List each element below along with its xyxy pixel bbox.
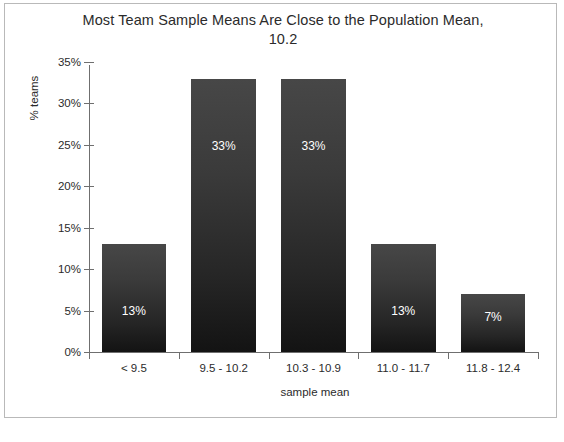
bar[interactable]: 13%: [371, 244, 436, 352]
x-axis-tick-mark: [89, 352, 90, 359]
y-axis-tick-label: 20%: [58, 180, 81, 192]
x-axis-tick-mark: [448, 352, 449, 359]
x-axis-title: sample mean: [89, 386, 541, 398]
x-axis-category-label: 11.8 - 12.4: [448, 362, 538, 374]
bar-value-label: 13%: [102, 304, 167, 318]
chart-title-line-2: 10.2: [269, 31, 298, 47]
y-axis-tick-mark: [84, 145, 94, 146]
x-axis-tick-mark: [538, 352, 539, 359]
y-axis-tick-mark: [84, 228, 94, 229]
plot-area: 0%5%10%15%20%25%30%35% 13%33%33%13%7% < …: [89, 62, 545, 354]
y-axis-tick-label: 10%: [58, 263, 81, 275]
y-axis-title: % teams: [28, 58, 40, 138]
y-axis-tick-label: 35%: [58, 56, 81, 68]
chart-frame: Most Team Sample Means Are Close to the …: [4, 3, 557, 418]
y-axis-tick-label: 25%: [58, 139, 81, 151]
x-axis-category-label: 9.5 - 10.2: [179, 362, 269, 374]
bar-value-label: 33%: [281, 139, 346, 153]
bar[interactable]: 33%: [281, 79, 346, 352]
bar[interactable]: 13%: [102, 244, 167, 352]
y-axis-tick-label: 5%: [64, 305, 81, 317]
y-axis-tick-mark: [84, 186, 94, 187]
x-axis-category-label: 10.3 - 10.9: [269, 362, 359, 374]
bottom-caption: [6, 429, 326, 441]
y-axis-tick-mark: [84, 269, 94, 270]
x-axis-tick-mark: [358, 352, 359, 359]
y-axis-tick-mark: [84, 311, 94, 312]
x-axis-tick-mark: [269, 352, 270, 359]
x-axis-tick-mark: [179, 352, 180, 359]
bar[interactable]: 7%: [461, 294, 526, 352]
y-axis-tick-label: 30%: [58, 97, 81, 109]
y-axis-line: [89, 65, 90, 352]
y-axis-tick-mark: [84, 62, 94, 63]
chart-title: Most Team Sample Means Are Close to the …: [33, 11, 533, 49]
y-axis-tick-label: 0%: [64, 346, 81, 358]
x-axis-line: [89, 352, 538, 353]
y-axis-tick-label: 15%: [58, 222, 81, 234]
y-axis-tick-mark: [84, 103, 94, 104]
bar[interactable]: 33%: [191, 79, 256, 352]
x-axis-category-label: 11.0 - 11.7: [358, 362, 448, 374]
bar-value-label: 33%: [191, 139, 256, 153]
bar-value-label: 7%: [461, 310, 526, 324]
bar-value-label: 13%: [371, 304, 436, 318]
chart-title-line-1: Most Team Sample Means Are Close to the …: [82, 12, 483, 28]
x-axis-category-label: < 9.5: [89, 362, 179, 374]
